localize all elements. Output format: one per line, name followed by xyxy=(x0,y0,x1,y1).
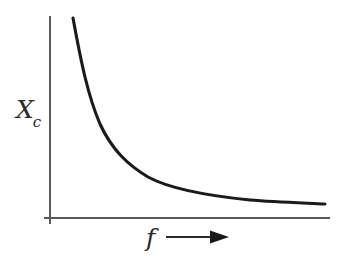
figure-container: Xc f xyxy=(0,0,341,260)
reactance-curve xyxy=(73,18,325,204)
x-axis-label: f xyxy=(146,225,155,250)
plot-canvas xyxy=(0,0,341,260)
y-axis-label-main: X xyxy=(16,95,34,124)
y-axis-label-subscript: c xyxy=(33,113,41,131)
y-axis-label: Xc xyxy=(16,97,42,127)
right-arrow-icon xyxy=(166,231,229,244)
